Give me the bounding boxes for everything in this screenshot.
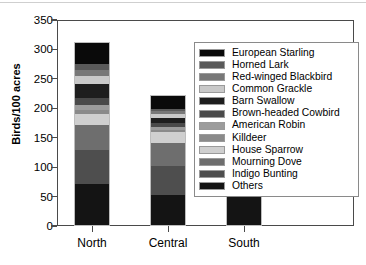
legend-swatch-icon — [199, 49, 225, 57]
legend-item[interactable]: Barn Swallow — [199, 95, 353, 107]
bar-segment[interactable] — [151, 96, 185, 109]
legend-swatch-icon — [199, 85, 225, 93]
y-tick-mark — [51, 108, 57, 109]
bar-segment[interactable] — [151, 132, 185, 143]
y-tick-label: 0 — [21, 220, 53, 232]
x-tick-label-south: South — [228, 236, 259, 250]
legend-item[interactable]: Common Grackle — [199, 83, 353, 95]
bar-segment[interactable] — [75, 184, 109, 225]
y-tick-mark — [51, 196, 57, 197]
legend-swatch-icon — [199, 146, 225, 154]
x-tick-mark — [244, 226, 245, 232]
bar-segment[interactable] — [151, 143, 185, 166]
bar-north[interactable] — [75, 43, 109, 225]
x-tick-label-central: Central — [149, 236, 188, 250]
legend-swatch-icon — [199, 97, 225, 105]
legend-item[interactable]: Others — [199, 180, 353, 192]
y-tick-mark — [51, 78, 57, 79]
x-tick-mark — [168, 226, 169, 232]
bar-segment[interactable] — [75, 76, 109, 85]
y-tick-mark — [51, 49, 57, 50]
legend-swatch-icon — [199, 73, 225, 81]
legend-swatch-icon — [199, 122, 225, 130]
x-tick-mark — [92, 226, 93, 232]
legend-item[interactable]: European Starling — [199, 47, 353, 59]
legend-item-label: Killdeer — [232, 133, 266, 143]
y-tick-label: 150 — [21, 132, 53, 144]
bar-central[interactable] — [151, 96, 185, 225]
bar-segment[interactable] — [75, 114, 109, 125]
legend-item-label: American Robin — [232, 120, 305, 130]
legend-swatch-icon — [199, 158, 225, 166]
bar-segment[interactable] — [75, 125, 109, 150]
legend-item[interactable]: American Robin — [199, 120, 353, 132]
y-tick-mark — [51, 137, 57, 138]
y-tick-label: 50 — [21, 191, 53, 203]
bar-segment[interactable] — [75, 150, 109, 184]
x-tick-label-north: North — [77, 236, 106, 250]
stacked-bar-chart: Birds/100 acres 050100150200250300350 No… — [0, 0, 366, 265]
legend-swatch-icon — [199, 170, 225, 178]
legend-item-label: European Starling — [232, 48, 314, 58]
legend-item-label: Horned Lark — [232, 60, 289, 70]
legend-item[interactable]: Killdeer — [199, 132, 353, 144]
legend-item-label: Brown-headed Cowbird — [232, 108, 340, 118]
legend-swatch-icon — [199, 182, 225, 190]
legend-item-label: Common Grackle — [232, 84, 312, 94]
y-tick-label: 100 — [21, 161, 53, 173]
chart-legend: European StarlingHorned LarkRed-winged B… — [194, 42, 359, 197]
bar-segment[interactable] — [75, 84, 109, 98]
legend-item[interactable]: House Sparrow — [199, 144, 353, 156]
bar-segment[interactable] — [151, 166, 185, 195]
y-tick-label: 200 — [21, 102, 53, 114]
y-tick-mark — [51, 225, 57, 226]
y-tick-mark — [51, 167, 57, 168]
legend-swatch-icon — [199, 110, 225, 118]
legend-item-label: Barn Swallow — [232, 96, 294, 106]
y-tick-label: 350 — [21, 14, 53, 26]
legend-item[interactable]: Indigo Bunting — [199, 168, 353, 180]
legend-item-label: House Sparrow — [232, 145, 303, 155]
legend-item-label: Mourning Dove — [232, 157, 302, 167]
bar-segment[interactable] — [75, 98, 109, 105]
y-tick-mark — [51, 19, 57, 20]
legend-item-label: Indigo Bunting — [232, 169, 298, 179]
y-axis-labels: 050100150200250300350 — [13, 0, 53, 265]
bar-segment[interactable] — [75, 43, 109, 64]
legend-swatch-icon — [199, 134, 225, 142]
y-tick-label: 250 — [21, 73, 53, 85]
legend-item-label: Others — [232, 181, 263, 191]
legend-swatch-icon — [199, 61, 225, 69]
legend-item[interactable]: Red-winged Blackbird — [199, 71, 353, 83]
legend-item-label: Red-winged Blackbird — [232, 72, 332, 82]
legend-item[interactable]: Brown-headed Cowbird — [199, 107, 353, 119]
page-scan-artifact-line — [0, 2, 366, 3]
legend-item[interactable]: Horned Lark — [199, 59, 353, 71]
y-tick-label: 300 — [21, 43, 53, 55]
bar-segment[interactable] — [151, 195, 185, 225]
legend-item[interactable]: Mourning Dove — [199, 156, 353, 168]
